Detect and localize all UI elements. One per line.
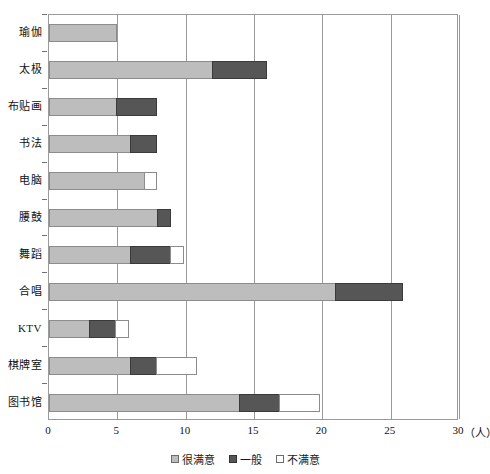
bar-row [49, 283, 457, 301]
bar-segment-一般 [116, 98, 157, 116]
bar-stack [49, 135, 157, 153]
bar-segment-很满意 [49, 394, 240, 412]
bar-segment-一般 [130, 357, 157, 375]
x-axis-tick-label-25: 25 [384, 424, 395, 436]
y-axis-tick [42, 235, 47, 236]
bar-segment-很满意 [49, 209, 158, 227]
x-axis-tick-label-15: 15 [248, 424, 259, 436]
y-axis-label-4: 电脑 [0, 174, 42, 186]
bar-segment-一般 [130, 135, 157, 153]
bar-stack [49, 209, 171, 227]
bar-segment-不满意 [170, 246, 184, 264]
bar-stack [49, 283, 403, 301]
legend-item-0[interactable]: 很满意 [171, 451, 215, 467]
bar-row [49, 357, 457, 375]
bar-segment-很满意 [49, 246, 131, 264]
bar-segment-不满意 [156, 357, 197, 375]
bar-segment-一般 [157, 209, 171, 227]
bar-segment-很满意 [49, 135, 131, 153]
y-axis-label-9: 棋牌室 [0, 359, 42, 371]
bar-segment-很满意 [49, 357, 131, 375]
bar-segment-一般 [239, 394, 280, 412]
bar-segment-一般 [335, 283, 403, 301]
x-axis-tick-label-30: 30 [453, 424, 464, 436]
legend-label: 一般 [240, 451, 262, 467]
bar-row [49, 98, 457, 116]
y-axis-tick [42, 309, 47, 310]
chart-legend: 很满意一般不满意 [0, 451, 490, 467]
swatch-dark-gray-icon [229, 455, 237, 463]
x-axis-tick-label-5: 5 [114, 424, 120, 436]
y-axis-label-8: KTV [0, 322, 42, 334]
bar-segment-不满意 [279, 394, 320, 412]
legend-item-2[interactable]: 不满意 [276, 451, 320, 467]
bar-segment-不满意 [115, 320, 129, 338]
y-axis-label-6: 舞蹈 [0, 248, 42, 260]
plot-area [48, 14, 458, 420]
bar-segment-一般 [212, 61, 267, 79]
y-axis-tick [42, 14, 47, 15]
bar-row [49, 172, 457, 190]
y-axis-label-0: 瑜伽 [0, 26, 42, 38]
bar-segment-很满意 [49, 283, 336, 301]
y-axis-tick [42, 162, 47, 163]
bar-stack [49, 98, 157, 116]
y-axis-label-7: 合唱 [0, 285, 42, 297]
x-axis-tick-label-0: 0 [45, 424, 51, 436]
y-axis-tick [42, 125, 47, 126]
x-axis-unit-label: （人） [464, 424, 490, 440]
bar-stack [49, 172, 157, 190]
y-axis-label-5: 腰鼓 [0, 211, 42, 223]
bar-row [49, 135, 457, 153]
bar-stack [49, 246, 184, 264]
x-axis-tick-label-10: 10 [179, 424, 190, 436]
bar-segment-一般 [130, 246, 171, 264]
bar-row [49, 320, 457, 338]
bar-stack [49, 24, 117, 42]
bar-segment-不满意 [144, 172, 158, 190]
legend-label: 很满意 [182, 451, 215, 467]
bar-segment-很满意 [49, 24, 117, 42]
bar-segment-很满意 [49, 320, 90, 338]
y-axis-tick [42, 199, 47, 200]
bar-row [49, 209, 457, 227]
y-axis-label-3: 书法 [0, 137, 42, 149]
legend-label: 不满意 [287, 451, 320, 467]
bar-segment-很满意 [49, 172, 145, 190]
bar-segment-很满意 [49, 61, 213, 79]
bar-segment-很满意 [49, 98, 117, 116]
bar-row [49, 61, 457, 79]
bar-stack [49, 394, 320, 412]
swatch-light-gray-icon [171, 455, 179, 463]
legend-item-1[interactable]: 一般 [229, 451, 262, 467]
swatch-white-icon [276, 455, 284, 463]
y-axis-tick [42, 346, 47, 347]
bar-row [49, 246, 457, 264]
bar-stack [49, 357, 197, 375]
gridline-30 [459, 15, 460, 419]
x-axis-tick-label-20: 20 [316, 424, 327, 436]
bar-stack [49, 61, 267, 79]
y-axis-tick [42, 88, 47, 89]
bar-row [49, 394, 457, 412]
y-axis-label-10: 图书馆 [0, 396, 42, 408]
y-axis-label-2: 布贴画 [0, 100, 42, 112]
bar-segment-一般 [89, 320, 116, 338]
bar-row [49, 24, 457, 42]
stacked-bar-chart: 瑜伽太极布贴画书法电脑腰鼓舞蹈合唱KTV棋牌室图书馆 051015202530（… [0, 0, 490, 474]
bar-stack [49, 320, 129, 338]
y-axis-tick [42, 51, 47, 52]
y-axis-tick [42, 383, 47, 384]
y-axis-tick [42, 272, 47, 273]
y-axis-label-1: 太极 [0, 63, 42, 75]
